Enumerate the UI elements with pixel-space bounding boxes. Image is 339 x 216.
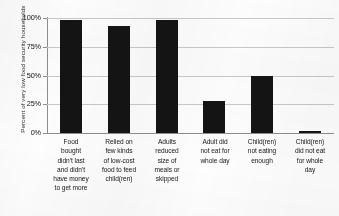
- bar: [156, 20, 178, 133]
- y-axis-tick-labels: 0%25%50%75%100%: [0, 0, 41, 216]
- y-tick-label: 25%: [1, 100, 41, 107]
- bar: [299, 131, 321, 133]
- bar: [203, 101, 225, 133]
- bar: [251, 76, 273, 134]
- y-tick-label: 0%: [1, 129, 41, 136]
- y-tick-mark: [43, 76, 47, 77]
- y-tick-label: 75%: [1, 43, 41, 50]
- gridline-100: [47, 18, 334, 19]
- y-tick-mark: [43, 133, 47, 134]
- gridline-50: [47, 76, 334, 77]
- y-tick-mark: [43, 104, 47, 105]
- gridline-75: [47, 47, 334, 48]
- y-tick-mark: [43, 47, 47, 48]
- y-tick-mark: [43, 18, 47, 19]
- gridline-25: [47, 104, 334, 105]
- bar-chart: Percent of very low food security househ…: [0, 0, 339, 216]
- x-axis-label: Child(ren)did not eatfor wholeday: [282, 137, 338, 174]
- gridline-0: [47, 133, 334, 134]
- plot-area: [47, 18, 334, 133]
- bar: [60, 20, 82, 133]
- bar: [108, 26, 130, 133]
- y-tick-label: 50%: [1, 72, 41, 79]
- y-tick-label: 100%: [1, 14, 41, 21]
- x-axis-category-labels: Foodboughtdidn't lastand didn'thave mone…: [47, 137, 334, 213]
